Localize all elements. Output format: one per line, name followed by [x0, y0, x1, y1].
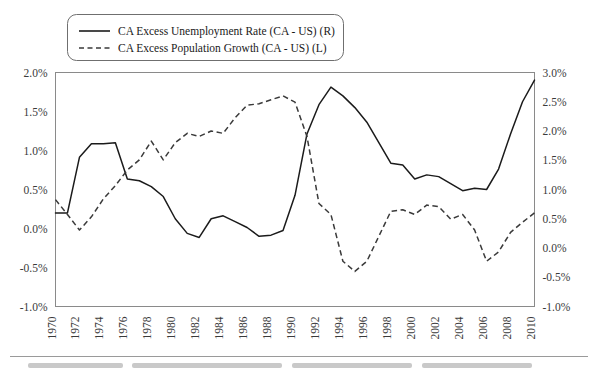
right-tick-label: 0.5% — [543, 213, 567, 225]
right-tick-label: 0.0% — [543, 242, 567, 254]
x-tick-label: 2010 — [525, 316, 537, 339]
caption-placeholder-3 — [292, 363, 412, 368]
x-tick-label: 2004 — [453, 316, 465, 339]
right-tick-label: -1.0% — [543, 301, 571, 313]
x-tick-label: 1976 — [117, 316, 129, 339]
x-tick-label: 2006 — [477, 316, 489, 339]
caption-placeholder-2 — [132, 363, 282, 368]
legend-label-population: CA Excess Population Growth (CA - US) (L… — [118, 42, 327, 55]
left-tick-label: 0.5% — [24, 184, 48, 196]
right-tick-label: -0.5% — [543, 271, 571, 283]
x-tick-label: 2000 — [405, 316, 417, 339]
right-tick-label: 1.0% — [543, 184, 567, 196]
x-axis-tick-labels: 1970197219741976197819801982198419861988… — [46, 316, 537, 339]
left-tick-label: -0.5% — [20, 262, 48, 274]
x-tick-label: 1998 — [381, 316, 393, 339]
left-tick-label: -1.0% — [20, 301, 48, 313]
x-tick-label: 1990 — [285, 316, 297, 339]
x-tick-label: 1978 — [141, 316, 153, 339]
x-tick-label: 1980 — [165, 316, 177, 339]
chart-figure: -1.0%-0.5%0.0%0.5%1.0%1.5%2.0% -1.0%-0.5… — [0, 0, 598, 370]
left-tick-label: 1.5% — [24, 106, 48, 118]
right-tick-label: 2.0% — [543, 125, 567, 137]
x-tick-label: 1982 — [189, 316, 201, 339]
caption-placeholder-1 — [28, 363, 123, 368]
x-tick-label: 1984 — [213, 316, 225, 339]
left-tick-label: 2.0% — [24, 67, 48, 79]
x-tick-label: 1970 — [46, 316, 58, 339]
legend-label-unemployment: CA Excess Unemployment Rate (CA - US) (R… — [118, 25, 335, 38]
right-tick-label: 2.5% — [543, 96, 567, 108]
x-tick-label: 1992 — [309, 316, 321, 339]
x-tick-label: 1996 — [357, 316, 369, 339]
left-tick-label: 1.0% — [24, 145, 48, 157]
x-tick-label: 2008 — [501, 316, 513, 339]
x-tick-label: 1986 — [237, 316, 249, 339]
x-tick-label: 1972 — [69, 316, 81, 339]
x-tick-label: 1988 — [261, 316, 273, 339]
caption-placeholder-4 — [422, 363, 532, 368]
left-tick-label: 0.0% — [24, 223, 48, 235]
x-tick-label: 1974 — [93, 316, 105, 339]
chart-legend: CA Excess Unemployment Rate (CA - US) (R… — [68, 15, 344, 61]
x-tick-label: 2002 — [429, 316, 441, 339]
x-tick-label: 1994 — [333, 316, 345, 339]
right-tick-label: 3.0% — [543, 67, 567, 79]
right-tick-label: 1.5% — [543, 154, 567, 166]
